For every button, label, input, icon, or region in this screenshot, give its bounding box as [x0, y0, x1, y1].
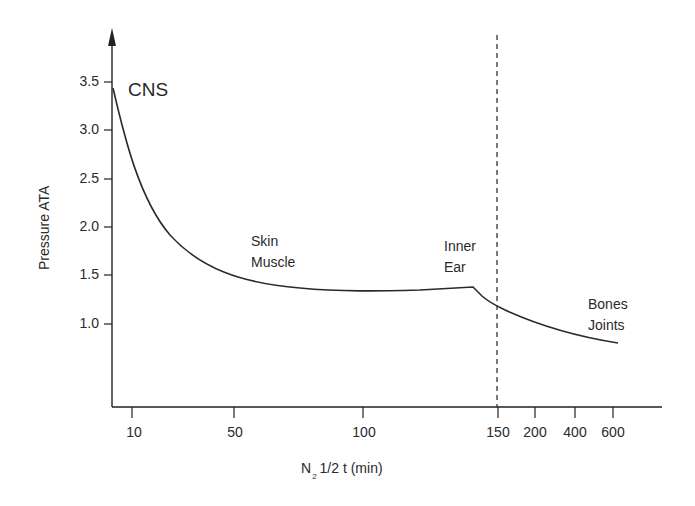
annotation-bones: Bones	[588, 294, 628, 315]
y-axis-title: Pressure ATA	[36, 186, 52, 270]
annotation-cns: CNS	[128, 79, 168, 101]
annotation-ear: Ear	[444, 257, 476, 278]
x-tick-label: 150	[486, 424, 509, 440]
x-tick-label: 600	[601, 424, 624, 440]
y-tick-label: 1.0	[59, 315, 99, 331]
x-axis-title-subscript: 2	[312, 472, 316, 481]
y-tick-label: 3.5	[59, 73, 99, 89]
x-axis-title: N21/2 t (min)	[301, 460, 383, 476]
annotation-bones-joints: Bones Joints	[588, 294, 628, 336]
annotation-inner-ear: Inner Ear	[444, 236, 476, 278]
annotation-joints: Joints	[588, 315, 628, 336]
annotation-muscle: Muscle	[251, 252, 295, 273]
x-tick-label: 100	[352, 424, 375, 440]
annotation-skin-muscle: Skin Muscle	[251, 231, 295, 273]
chart-canvas	[0, 0, 695, 506]
y-tick-label: 2.0	[59, 218, 99, 234]
x-ticks	[132, 407, 613, 418]
x-tick-label: 50	[227, 424, 243, 440]
x-axis-title-main: N	[301, 460, 311, 476]
x-tick-label: 10	[126, 424, 142, 440]
pressure-curve	[113, 88, 618, 343]
annotation-skin: Skin	[251, 231, 295, 252]
x-tick-label: 400	[563, 424, 586, 440]
y-tick-label: 2.5	[59, 170, 99, 186]
x-axis-title-rest: 1/2 t (min)	[320, 460, 383, 476]
annotation-inner: Inner	[444, 236, 476, 257]
y-tick-label: 1.5	[59, 266, 99, 282]
x-tick-label: 200	[523, 424, 546, 440]
y-tick-label: 3.0	[59, 121, 99, 137]
y-axis-arrow-icon	[108, 28, 116, 46]
y-ticks	[104, 82, 112, 324]
